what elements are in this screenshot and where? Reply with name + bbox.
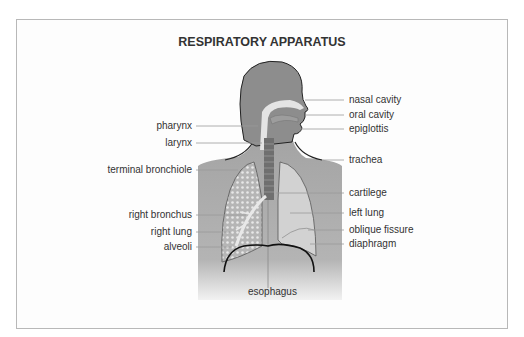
label-trachea: trachea (349, 154, 382, 166)
label-oral-cavity: oral cavity (349, 109, 394, 121)
label-larynx: larynx (82, 137, 192, 149)
label-oblique-fissure: oblique fissure (349, 224, 413, 236)
label-right-lung: right lung (82, 226, 192, 238)
label-right-bronchus: right bronchus (82, 209, 192, 221)
label-left-lung: left lung (349, 207, 384, 219)
label-alveoli: alveoli (82, 241, 192, 253)
label-esophagus: esophagus (248, 286, 297, 298)
label-pharynx: pharynx (82, 120, 192, 132)
label-nasal-cavity: nasal cavity (349, 94, 401, 106)
trachea-shape (264, 138, 274, 200)
label-terminal-bronchiole: terminal bronchiole (82, 164, 192, 176)
label-epiglottis: epiglottis (349, 123, 388, 135)
label-diaphragm: diaphragm (349, 238, 396, 250)
label-cartilege: cartilege (349, 187, 387, 199)
